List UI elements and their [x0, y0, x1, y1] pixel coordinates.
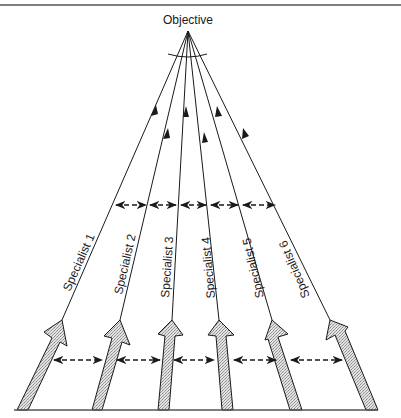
line-specialist-3	[172, 31, 188, 320]
specialist-label-1: Specialist 1	[60, 231, 98, 293]
objective-label: Objective	[163, 13, 213, 27]
big-arrow-2	[92, 320, 130, 410]
arrowhead-icon	[215, 106, 222, 117]
convergence-arc	[168, 54, 207, 57]
specialist-big-arrows	[17, 320, 378, 410]
big-arrow-5	[265, 320, 302, 410]
arrowhead-icon	[202, 132, 208, 143]
specialist-label-4: Specialist 4	[199, 236, 218, 299]
big-arrow-1	[17, 320, 67, 410]
specialist-label-5: Specialist 5	[239, 236, 267, 299]
big-arrow-6	[326, 320, 378, 410]
line-specialist-2	[120, 31, 188, 320]
specialist-label-2: Specialist 2	[111, 232, 139, 295]
big-arrow-3	[158, 320, 183, 410]
specialist-convergence-diagram: Objective Specialist 1 Specialist 2 Spec…	[0, 0, 401, 418]
arrowhead-icon	[242, 128, 249, 139]
big-arrow-4	[208, 320, 234, 410]
